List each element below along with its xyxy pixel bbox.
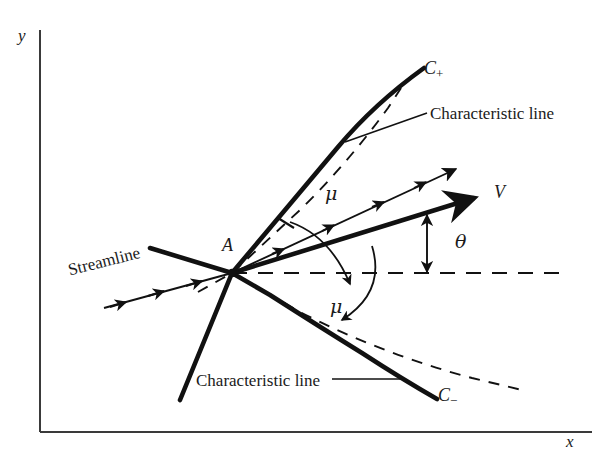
mach-angle-upper-label: μ: [325, 182, 337, 204]
characteristic-line-upper-caption: Characteristic line: [430, 104, 554, 124]
c-minus-label: C−: [438, 385, 457, 409]
c-minus-base: C: [438, 385, 450, 405]
upper-streamline: [232, 169, 456, 273]
point-A-label: A: [222, 235, 233, 256]
incoming-streamline-arrowhead-1: [110, 302, 126, 307]
c-plus-subscript: +: [436, 66, 443, 81]
x-axis-label: x: [566, 432, 574, 452]
y-axis-label: y: [18, 26, 26, 46]
upper-streamline-arrowhead-1: [272, 249, 284, 254]
c-plus-characteristic-curve: [150, 68, 424, 273]
incoming-streamline-arrowhead-2: [148, 291, 164, 296]
incoming-streamline-arrowhead-3: [186, 281, 202, 286]
characteristic-line-lower-caption: Characteristic line: [196, 371, 320, 391]
incoming-streamline: [104, 273, 232, 308]
c-minus-subscript: −: [450, 393, 457, 408]
velocity-vector-V: [232, 198, 474, 273]
upper-streamline-arrowhead-2: [322, 225, 334, 231]
c-plus-label: C+: [424, 58, 443, 82]
diagram-canvas: [0, 0, 609, 462]
c-plus-base: C: [424, 58, 436, 78]
mu-lower-arc: [342, 246, 375, 320]
figure-root: y x A V C+ C− μ μ θ Characteristic line …: [0, 0, 609, 462]
velocity-vector-label: V: [494, 182, 505, 203]
mach-angle-lower-label: μ: [330, 295, 342, 317]
upper-streamline-arrowhead-4: [414, 182, 426, 188]
point-A-marker: [228, 269, 236, 277]
flow-angle-label: θ: [455, 230, 466, 252]
